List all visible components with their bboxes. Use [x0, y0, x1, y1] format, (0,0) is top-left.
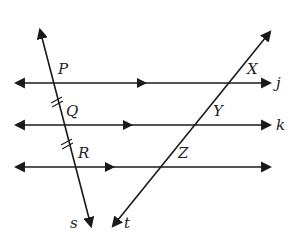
point-label-z: Z [178, 146, 188, 161]
line-label-s: s [70, 216, 78, 231]
point-label-q: Q [66, 104, 78, 119]
parallel-lines-group [16, 78, 270, 172]
transversals-group [40, 30, 270, 226]
parallel-arrow-icon [105, 162, 115, 172]
point-label-r: R [78, 146, 89, 161]
parallel-arrow-icon [123, 120, 133, 130]
parallel-lines-diagram [0, 0, 297, 236]
line-label-j: j [276, 76, 281, 91]
point-label-y: Y [213, 104, 223, 119]
line-label-k: k [276, 118, 285, 133]
line-label-t: t [124, 216, 130, 231]
point-label-p: P [58, 62, 68, 77]
parallel-arrow-icon [137, 78, 147, 88]
point-label-x: X [247, 62, 258, 77]
